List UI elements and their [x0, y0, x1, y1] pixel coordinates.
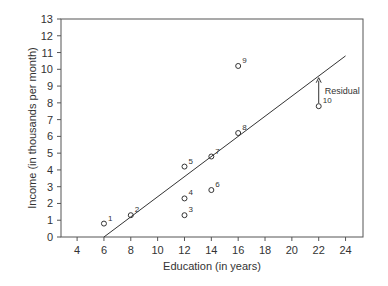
data-point-label: 6 — [215, 180, 220, 189]
y-tick-label: 3 — [47, 181, 53, 193]
data-point — [316, 104, 321, 109]
regression-line — [104, 56, 346, 237]
y-axis-label: Income (in thousands per month) — [26, 47, 38, 208]
data-point — [209, 188, 214, 193]
y-tick-label: 6 — [47, 130, 53, 142]
x-axis-label: Education (in years) — [163, 260, 261, 272]
y-tick-label: 13 — [41, 13, 53, 25]
y-tick-label: 12 — [41, 30, 53, 42]
data-point-label: 10 — [323, 96, 332, 105]
x-tick-label: 14 — [205, 244, 217, 256]
plot-frame — [61, 19, 363, 237]
data-point-label: 7 — [215, 147, 220, 156]
x-tick-label: 22 — [313, 244, 325, 256]
y-tick-label: 5 — [47, 147, 53, 159]
data-point — [101, 221, 106, 226]
data-point-label: 1 — [108, 214, 113, 223]
y-tick-label: 2 — [47, 197, 53, 209]
scatter-chart: 0123456789101112134681012141618202224Edu… — [0, 0, 388, 286]
y-tick-label: 11 — [42, 47, 53, 59]
data-point-label: 2 — [135, 205, 140, 214]
x-tick-label: 16 — [232, 244, 244, 256]
data-point — [182, 196, 187, 201]
y-tick-label: 4 — [47, 164, 53, 176]
y-tick-label: 10 — [41, 63, 53, 75]
data-point-label: 3 — [188, 205, 193, 214]
data-point-label: 5 — [188, 157, 193, 166]
y-tick-label: 8 — [47, 97, 53, 109]
data-point-label: 9 — [242, 56, 247, 65]
residual-label: Residual — [325, 86, 360, 96]
x-tick-label: 24 — [339, 244, 351, 256]
x-tick-label: 18 — [259, 244, 271, 256]
x-tick-label: 8 — [128, 244, 134, 256]
y-tick-label: 7 — [47, 114, 53, 126]
y-tick-label: 1 — [47, 214, 53, 226]
data-point — [182, 213, 187, 218]
data-point-label: 8 — [242, 123, 247, 132]
x-tick-label: 12 — [178, 244, 190, 256]
data-point — [182, 164, 187, 169]
data-point-label: 4 — [188, 188, 193, 197]
data-point — [236, 131, 241, 136]
x-tick-label: 6 — [101, 244, 107, 256]
x-tick-label: 10 — [152, 244, 164, 256]
x-tick-label: 4 — [74, 244, 80, 256]
y-tick-label: 9 — [47, 80, 53, 92]
y-tick-label: 0 — [47, 231, 53, 243]
x-tick-label: 20 — [286, 244, 298, 256]
chart-container: 0123456789101112134681012141618202224Edu… — [0, 0, 388, 286]
data-point — [236, 63, 241, 68]
